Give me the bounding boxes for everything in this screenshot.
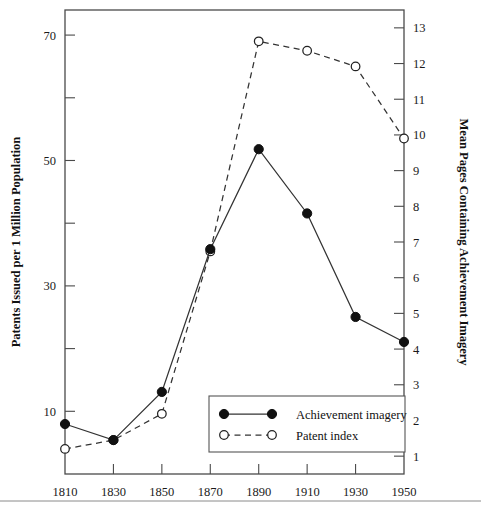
right-tick-label: 7 (413, 236, 419, 250)
x-tick-label: 1810 (53, 485, 78, 499)
chart-svg: 10305070 12345678910111213 1810183018501… (0, 0, 481, 515)
data-point (303, 46, 312, 55)
y2-axis-title: Mean Pages Containing Achievement Imager… (457, 118, 471, 366)
legend-box (209, 396, 405, 452)
right-axis-tick-labels: 12345678910111213 (413, 21, 426, 463)
data-point (158, 410, 167, 419)
data-point (303, 209, 312, 218)
right-tick-label: 8 (413, 200, 419, 214)
right-tick-label: 11 (413, 93, 425, 107)
right-tick-label: 1 (413, 450, 419, 464)
x-axis-tick-labels: 18101830185018701890191019301950 (53, 485, 417, 499)
data-point (400, 134, 409, 143)
right-tick-label: 5 (413, 307, 419, 321)
series-line (65, 41, 404, 449)
left-tick-label: 10 (44, 405, 57, 419)
chart-figure: 10305070 12345678910111213 1810183018501… (0, 0, 481, 515)
x-tick-label: 1910 (295, 485, 320, 499)
legend-label: Achievement imagery (296, 408, 407, 422)
data-point (109, 435, 118, 444)
data-point (351, 62, 360, 71)
x-tick-label: 1950 (392, 485, 417, 499)
legend-label: Patent index (296, 429, 359, 443)
right-axis-ticks (394, 28, 404, 456)
data-point (399, 337, 408, 346)
data-point (254, 37, 263, 46)
legend-marker (267, 409, 276, 418)
x-tick-label: 1870 (198, 485, 223, 499)
right-tick-label: 9 (413, 164, 419, 178)
x-tick-label: 1930 (343, 485, 368, 499)
right-tick-label: 10 (413, 128, 426, 142)
legend-marker (219, 409, 228, 418)
right-tick-label: 3 (413, 378, 419, 392)
series-patent-index (61, 37, 409, 453)
right-tick-label: 13 (413, 21, 426, 35)
left-tick-label: 30 (44, 279, 57, 293)
x-tick-label: 1890 (246, 485, 271, 499)
right-tick-label: 6 (413, 271, 419, 285)
right-tick-label: 12 (413, 57, 426, 71)
left-axis-tick-labels: 10305070 (44, 29, 57, 419)
legend-marker (220, 431, 229, 440)
y-axis-title: Patents Issued per 1 Million Population (9, 137, 23, 348)
chart-legend: Achievement imageryPatent index (209, 396, 407, 452)
left-axis-ticks (65, 35, 75, 411)
data-point (60, 419, 69, 428)
data-point (206, 245, 215, 254)
data-point (61, 445, 70, 454)
x-tick-label: 1830 (101, 485, 126, 499)
right-tick-label: 4 (413, 343, 420, 357)
right-tick-label: 2 (413, 414, 419, 428)
x-tick-label: 1850 (149, 485, 174, 499)
left-tick-label: 50 (44, 154, 57, 168)
legend-marker (268, 431, 277, 440)
x-axis-ticks (113, 464, 355, 474)
data-point (157, 387, 166, 396)
data-point (254, 145, 263, 154)
data-point (351, 312, 360, 321)
left-tick-label: 70 (44, 29, 57, 43)
